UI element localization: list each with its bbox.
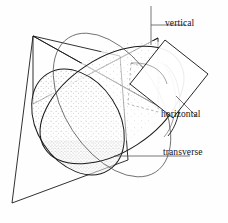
label-vertical: vertical xyxy=(165,18,194,28)
label-horizontal: horizontal xyxy=(161,109,201,119)
label-transverse: transverse xyxy=(163,147,203,157)
figure-container: vertical horizontal transverse xyxy=(0,0,228,223)
